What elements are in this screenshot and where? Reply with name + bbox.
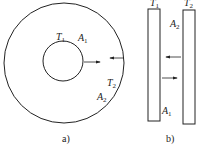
label-a1-a: A1	[77, 32, 88, 45]
panel-b: T1 T2 A2 A1 b)	[148, 0, 195, 145]
label-t2-a: T2	[107, 77, 117, 90]
radiation-diagram: T1 A1 T2 A2 a) T1 T2 A2 A1 b)	[0, 0, 199, 151]
plate-right	[183, 10, 195, 124]
panel-a: T1 A1 T2 A2 a)	[4, 3, 124, 145]
caption-a: a)	[62, 133, 70, 145]
label-t2-b: T2	[184, 0, 194, 10]
plate-left	[148, 9, 160, 121]
label-a2-a: A2	[96, 91, 107, 104]
caption-b: b)	[166, 133, 174, 145]
label-a2-b: A2	[169, 18, 180, 31]
outer-circle	[4, 3, 124, 123]
label-a1-b: A1	[161, 105, 172, 118]
inner-circle	[43, 41, 83, 81]
